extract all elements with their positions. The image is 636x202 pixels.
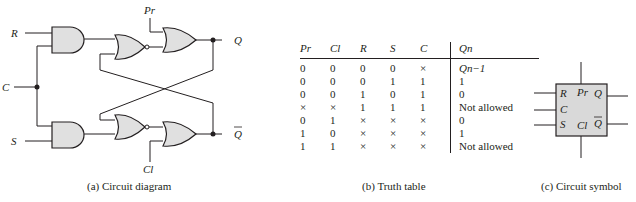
header-cl: Cl [330,42,360,59]
header-c: C [420,42,451,59]
cell: 1 [330,140,360,153]
cell: 1 [390,75,420,88]
cell: 1 [420,101,451,114]
table-row: 0000×Qn−1 [300,59,539,76]
cell: × [330,101,360,114]
nor-gate-top [115,35,145,60]
cell: 1 [390,101,420,114]
table-row: 10×××1 [300,127,539,140]
caption-a: (a) Circuit diagram [87,180,171,192]
cell: 1 [420,75,451,88]
or-gate-top [163,28,196,53]
and-gate-top [52,27,84,53]
cell: × [390,114,420,127]
cell: × [360,114,390,127]
cell: 1 [300,140,330,153]
cell: 1 [420,88,451,101]
cell: × [360,140,390,153]
cell: 0 [390,88,420,101]
table-row: 001010 [300,88,539,101]
label-c: C [2,81,10,93]
caption-b: (b) Truth table [362,180,426,192]
cell: × [360,127,390,140]
cell: 1 [360,88,390,101]
circuit-symbol-panel: R C S Pr Cl Q Q (c) Circuit symbol [520,0,636,202]
label-cl: Cl [143,163,153,175]
or-gate-bottom [163,122,196,147]
symbol-label-pr: Pr [576,86,589,98]
cell: 0 [330,127,360,140]
cell: 0 [390,59,420,76]
symbol-label-r: R [559,87,567,99]
cell: × [300,101,330,114]
truth-table: Pr Cl R S C Qn 0000×Qn−1 000111 001010 ×… [300,42,539,153]
table-row: ××111Not allowed [300,101,539,114]
nor-gate-bottom [115,115,145,140]
cell: 0 [330,59,360,76]
circuit-diagram: R C S Pr Cl Q Q [0,0,250,180]
cell: 0 [300,59,330,76]
cell: 1 [330,114,360,127]
header-pr: Pr [300,42,330,59]
cell: 0 [300,114,330,127]
cell: 0 [330,75,360,88]
label-q: Q [234,34,242,46]
symbol-label-q: Q [594,87,602,99]
label-pr: Pr [143,4,156,16]
cell: × [420,114,451,127]
header-s: S [390,42,420,59]
cell: 0 [300,75,330,88]
table-row: 000111 [300,75,539,88]
cell: 0 [360,75,390,88]
flip-flop-symbol: R C S Pr Cl Q Q [520,0,636,160]
cell: × [420,127,451,140]
symbol-label-q-bar: Q [594,117,602,129]
header-r: R [360,42,390,59]
and-gate-bottom [52,122,84,148]
symbol-label-cl: Cl [577,119,587,131]
table-row: 01×××0 [300,114,539,127]
table-row: 11×××Not allowed [300,140,539,153]
symbol-label-s: S [560,118,566,130]
cell: 1 [300,127,330,140]
cell: 0 [300,88,330,101]
symbol-label-c: C [560,103,568,115]
label-s: S [11,135,17,147]
cell: × [420,140,451,153]
cell: × [420,59,451,76]
circuit-diagram-panel: R C S Pr Cl Q Q (a) Circuit diagram [0,0,250,202]
caption-c: (c) Circuit symbol [541,180,622,192]
cell: 0 [360,59,390,76]
cell: 1 [360,101,390,114]
label-q-bar: Q [234,128,242,140]
label-r: R [10,27,18,39]
cell: × [390,127,420,140]
table-header-row: Pr Cl R S C Qn [300,42,539,59]
cell: × [390,140,420,153]
cell: 0 [330,88,360,101]
